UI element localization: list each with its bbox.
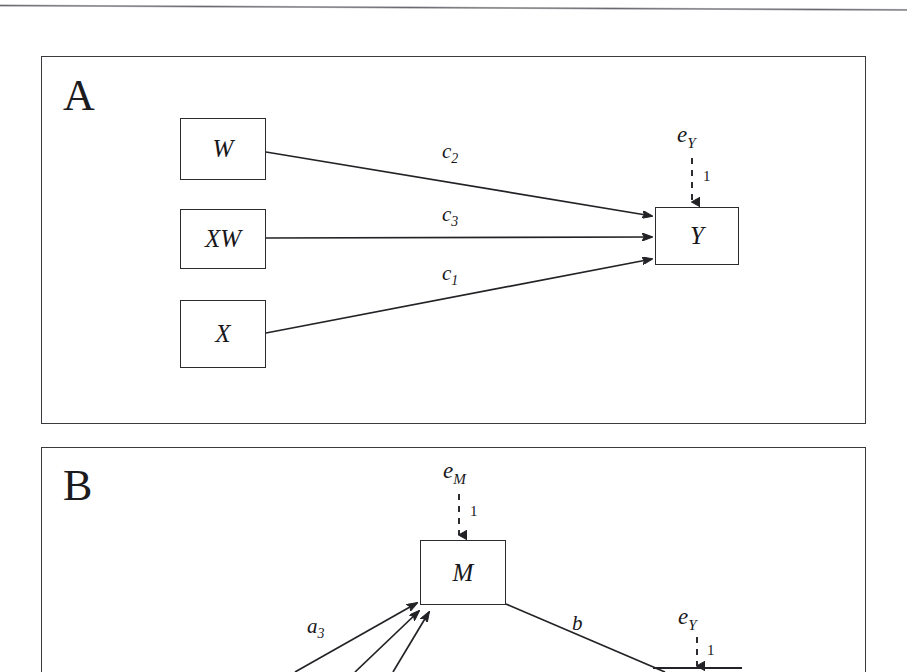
- node-x: X: [180, 300, 266, 368]
- node-m: M: [420, 540, 506, 605]
- node-w: W: [180, 118, 266, 180]
- node-y-panel-a: Y: [655, 207, 739, 265]
- path-label-b: b: [572, 611, 583, 636]
- node-xw: XW: [180, 209, 266, 269]
- error-em-sub: M: [453, 470, 466, 487]
- node-y-label-panel-a: Y: [690, 222, 704, 250]
- scan-artifact-line: [0, 4, 907, 11]
- path-c1-sub: 1: [451, 273, 458, 288]
- path-label-a3: a3: [307, 614, 324, 642]
- error-ey-loading-panel-a: 1: [703, 168, 711, 185]
- path-label-c1: c1: [442, 261, 458, 289]
- node-w-label: W: [213, 135, 234, 163]
- error-ey-base-a: e: [677, 122, 687, 147]
- error-ey-sub-a: Y: [687, 134, 695, 151]
- path-a3-base: a: [307, 614, 318, 638]
- path-c1-base: c: [442, 261, 451, 285]
- figure-canvas: A W XW X Y eY 1 c2 c3 c1 B M eM 1 eY 1 a…: [0, 0, 907, 672]
- error-ey-sub-b: Y: [688, 616, 696, 633]
- path-c3-base: c: [442, 202, 451, 226]
- path-c2-base: c: [442, 139, 451, 163]
- node-xw-label: XW: [205, 225, 241, 253]
- path-a3-sub: 3: [318, 626, 325, 641]
- error-term-ey-panel-a: eY: [677, 122, 696, 152]
- path-c3-sub: 3: [451, 214, 458, 229]
- error-term-ey-panel-b: eY: [678, 604, 697, 634]
- panel-a-letter: A: [63, 74, 95, 118]
- panel-a-frame: [41, 56, 866, 424]
- error-ey-base-b: e: [678, 604, 688, 629]
- error-ey-loading-panel-b: 1: [707, 642, 715, 659]
- error-em-base: e: [443, 458, 453, 483]
- node-x-label: X: [215, 320, 230, 348]
- node-m-label: M: [453, 559, 474, 587]
- path-c2-sub: 2: [451, 151, 458, 166]
- path-label-c2: c2: [442, 139, 458, 167]
- panel-b-letter: B: [63, 464, 92, 508]
- error-term-em: eM: [443, 458, 466, 488]
- error-em-loading: 1: [470, 503, 478, 520]
- path-label-c3: c3: [442, 202, 458, 230]
